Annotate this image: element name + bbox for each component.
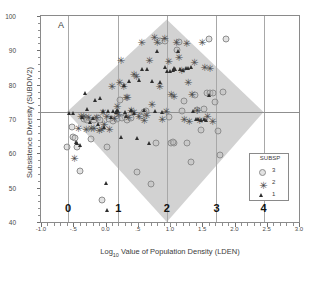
x-axis-tick-mark bbox=[106, 223, 107, 227]
data-point-subsp-2: ✳ bbox=[147, 99, 156, 108]
y-axis-minor-tick bbox=[38, 215, 40, 216]
y-axis-minor-tick bbox=[38, 57, 40, 58]
data-point-subsp-3 bbox=[187, 158, 194, 165]
y-axis-tick-mark bbox=[37, 16, 40, 17]
data-point-subsp-3 bbox=[214, 127, 221, 134]
x-axis-minor-tick bbox=[80, 223, 81, 226]
x-axis-tick-mark bbox=[41, 223, 42, 227]
y-axis-minor-tick bbox=[38, 71, 40, 72]
x-axis-minor-tick bbox=[222, 223, 223, 226]
y-axis-tick-mark bbox=[37, 85, 40, 86]
legend-item-2[interactable]: ✳2 bbox=[250, 177, 290, 189]
y-axis-tick-mark bbox=[37, 119, 40, 120]
y-axis-minor-tick bbox=[38, 133, 40, 134]
y-axis-minor-tick bbox=[38, 37, 40, 38]
data-point-subsp-1 bbox=[158, 80, 162, 84]
x-axis-minor-tick bbox=[273, 223, 274, 226]
legend-title: SUBSP bbox=[250, 155, 290, 161]
legend-item-label: 1 bbox=[272, 191, 275, 197]
data-point-subsp-1 bbox=[119, 135, 123, 139]
x-axis-minor-tick bbox=[209, 223, 210, 226]
data-point-subsp-1 bbox=[91, 116, 95, 120]
data-point-subsp-2: ✳ bbox=[185, 116, 194, 125]
y-axis-tick-label: 70 bbox=[0, 116, 16, 123]
x-axis-minor-tick bbox=[241, 223, 242, 226]
x-axis-minor-tick bbox=[247, 223, 248, 226]
data-point-subsp-2: ✳ bbox=[160, 34, 169, 43]
x-axis-minor-tick bbox=[144, 223, 145, 226]
data-point-subsp-1 bbox=[204, 118, 208, 122]
y-axis-minor-tick bbox=[38, 64, 40, 65]
data-point-subsp-1 bbox=[98, 96, 102, 100]
x-axis-title-pre: Log bbox=[100, 247, 113, 256]
x-axis-minor-tick bbox=[54, 223, 55, 226]
data-point-subsp-3 bbox=[147, 181, 154, 188]
data-point-subsp-1 bbox=[142, 108, 146, 112]
x-axis-minor-tick bbox=[125, 223, 126, 226]
y-axis-minor-tick bbox=[38, 174, 40, 175]
data-point-subsp-1 bbox=[115, 108, 119, 112]
legend-item-3[interactable]: 3 bbox=[250, 165, 290, 177]
group-marker-label-0: 0 bbox=[65, 202, 71, 214]
y-axis-minor-tick bbox=[38, 167, 40, 168]
data-point-subsp-3 bbox=[103, 144, 110, 151]
x-axis-minor-tick bbox=[228, 223, 229, 226]
data-point-subsp-1 bbox=[109, 115, 113, 119]
data-point-subsp-1 bbox=[153, 109, 157, 113]
x-axis-minor-tick bbox=[67, 223, 68, 226]
y-axis-tick-mark bbox=[37, 222, 40, 223]
data-point-subsp-1 bbox=[102, 125, 106, 129]
data-point-subsp-1 bbox=[105, 208, 109, 212]
y-axis-minor-tick bbox=[38, 112, 40, 113]
data-point-subsp-1 bbox=[80, 115, 84, 119]
data-point-subsp-1 bbox=[140, 67, 144, 71]
data-point-subsp-2: ✳ bbox=[105, 125, 114, 134]
legend-item-1[interactable]: 1 bbox=[250, 189, 290, 201]
x-axis-title-post: Value of Population Density (LDEN) bbox=[119, 247, 240, 256]
data-point-subsp-2: ✳ bbox=[182, 39, 191, 48]
data-point-subsp-3 bbox=[183, 139, 190, 146]
data-point-subsp-2: ✳ bbox=[184, 77, 193, 86]
y-axis-tick-label: 80 bbox=[0, 81, 16, 88]
data-point-subsp-1 bbox=[135, 136, 139, 140]
y-axis-tick-mark bbox=[37, 153, 40, 154]
data-point-subsp-2: ✳ bbox=[117, 55, 126, 64]
data-point-subsp-1 bbox=[93, 98, 97, 102]
data-point-subsp-3 bbox=[170, 139, 177, 146]
x-axis-tick-mark bbox=[267, 223, 268, 227]
x-axis-title: Log10 Value of Population Density (LDEN) bbox=[40, 247, 300, 258]
x-axis-minor-tick bbox=[183, 223, 184, 226]
x-axis-minor-tick bbox=[118, 223, 119, 226]
data-point-subsp-1 bbox=[88, 120, 92, 124]
y-axis-minor-tick bbox=[38, 43, 40, 44]
y-axis-minor-tick bbox=[38, 181, 40, 182]
data-point-subsp-1 bbox=[207, 93, 211, 97]
x-axis-minor-tick bbox=[151, 223, 152, 226]
x-axis-tick-mark bbox=[235, 223, 236, 227]
x-axis-minor-tick bbox=[93, 223, 94, 226]
data-point-subsp-3 bbox=[181, 98, 188, 105]
data-point-subsp-1 bbox=[137, 78, 141, 82]
legend-triangle-icon bbox=[259, 193, 263, 197]
x-axis-minor-tick bbox=[215, 223, 216, 226]
data-point-subsp-1 bbox=[106, 109, 110, 113]
y-axis-minor-tick bbox=[38, 92, 40, 93]
data-point-subsp-2: ✳ bbox=[198, 38, 207, 47]
data-point-subsp-1 bbox=[150, 79, 154, 83]
y-axis-tick-label: 40 bbox=[0, 219, 16, 226]
data-point-subsp-2: ✳ bbox=[206, 63, 215, 72]
y-axis-tick-mark bbox=[37, 50, 40, 51]
data-point-subsp-3 bbox=[198, 127, 205, 134]
x-axis-minor-tick bbox=[254, 223, 255, 226]
x-axis-minor-tick bbox=[170, 223, 171, 226]
y-axis-minor-tick bbox=[38, 30, 40, 31]
x-axis-minor-tick bbox=[286, 223, 287, 226]
group-marker-label-1: 1 bbox=[115, 202, 121, 214]
data-point-subsp-2: ✳ bbox=[70, 154, 79, 163]
y-axis-minor-tick bbox=[38, 23, 40, 24]
data-point-subsp-3 bbox=[217, 151, 224, 158]
data-point-subsp-1 bbox=[176, 49, 180, 53]
data-point-subsp-3 bbox=[76, 168, 83, 175]
group-gridline-0 bbox=[68, 16, 69, 222]
y-axis-minor-tick bbox=[38, 140, 40, 141]
